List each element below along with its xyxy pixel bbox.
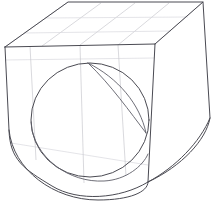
body-fill <box>5 2 210 197</box>
drawing-canvas <box>0 0 220 206</box>
wireframe-figure <box>0 0 220 206</box>
